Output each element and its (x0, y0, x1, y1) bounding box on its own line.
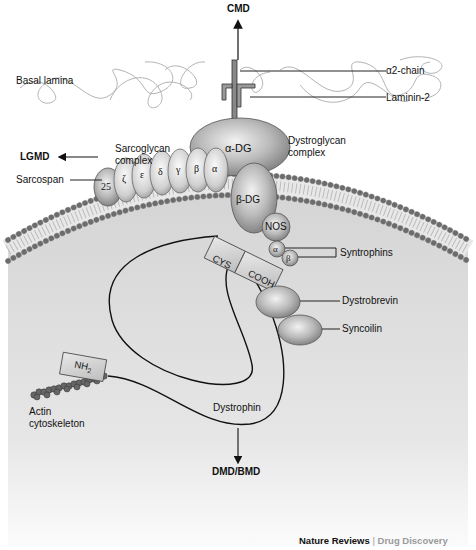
epsilon-sarcoglycan: ε (140, 169, 144, 181)
sarcoglycan-label: Sarcoglycancomplex (115, 143, 170, 167)
credit-line: Nature Reviews | Drug Discovery (299, 535, 448, 547)
alpha-syntrophin-label: α (273, 243, 278, 255)
sarcospan-number: 25 (101, 181, 111, 193)
nh2-domain-label: NH2 (73, 359, 93, 378)
lgmd-label: LGMD (20, 151, 49, 163)
dmd-bmd-label: DMD/BMD (212, 466, 260, 478)
alpha2-chain-label: α2-chain (386, 65, 425, 77)
basal-lamina-label: Basal lamina (16, 75, 73, 87)
dystrophin-label: Dystrophin (213, 402, 261, 414)
delta-sarcoglycan: δ (158, 166, 163, 178)
laminin-2-label: Laminin-2 (386, 92, 430, 104)
syntrophins-label: Syntrophins (340, 247, 393, 259)
dystrobrevin-label: Dystrobrevin (342, 295, 398, 307)
sarcospan-label: Sarcospan (16, 174, 64, 186)
beta-dg-label: β-DG (236, 194, 260, 206)
syncoilin-label: Syncoilin (342, 323, 382, 335)
zeta-sarcoglycan: ζ (122, 173, 126, 185)
laminin-2-structure (222, 60, 255, 123)
cmd-label: CMD (227, 3, 250, 15)
dystrobrevin (256, 286, 300, 318)
dystroglycan-label: Dystroglycancomplex (288, 135, 346, 159)
beta-sarcoglycan: β (194, 163, 199, 175)
beta-syntrophin-label: β (286, 252, 291, 264)
syncoilin (278, 315, 322, 345)
nos-label: NOS (265, 221, 287, 233)
alpha-sarcoglycan: α (212, 163, 217, 175)
gamma-sarcoglycan: γ (176, 164, 180, 176)
basal-lamina-fibers (20, 57, 442, 108)
actin-cytoskeleton-label: Actincytoskeleton (29, 406, 85, 430)
alpha-dg-label: α-DG (225, 142, 252, 154)
